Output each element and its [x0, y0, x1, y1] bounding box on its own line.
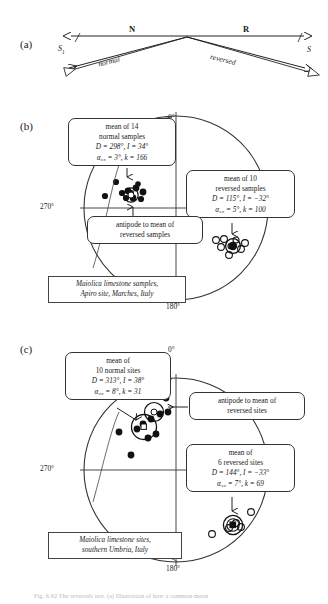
panel-c-axis-left: 270° — [40, 464, 54, 473]
panel-c-normal-points — [116, 395, 172, 459]
callout-reversed-sites: mean of 6 reversed sites D = 144°, I = −… — [186, 444, 295, 492]
panel-c-axis-top: 0° — [168, 345, 175, 354]
panel-c-stereonet — [0, 0, 328, 604]
panel-c-reversed-points — [209, 509, 255, 538]
panel-c-axis-bottom: 180° — [166, 564, 180, 573]
figure-caption: Fig. 6.62 The reversals test. (a) Illust… — [34, 592, 208, 599]
callout-normal-sites: mean of 10 normal sites D = 313°, I = 38… — [65, 352, 171, 400]
figure-root: (a) N R normal reversed — [0, 0, 328, 604]
callout-antipode-c: antipode to mean of reversed sites — [189, 392, 305, 420]
panel-c-sample-caption: Maiolica limestone sites, southern Umbri… — [48, 532, 182, 559]
